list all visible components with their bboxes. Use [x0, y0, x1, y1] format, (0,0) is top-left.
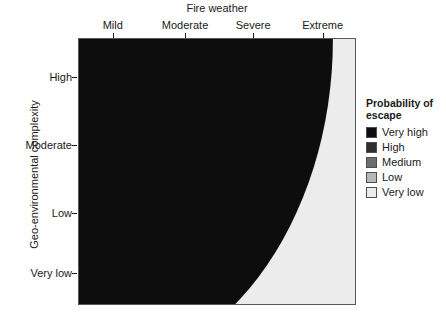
legend-item-label: Medium: [382, 156, 421, 169]
x-tick-label-1: Moderate: [162, 19, 208, 32]
y-tick-mark-3: [72, 273, 77, 274]
x-tick-label-2: Severe: [236, 19, 271, 32]
contour-bands: [79, 39, 355, 304]
legend-item-label: Very low: [382, 186, 424, 199]
plot-panel: [78, 38, 356, 305]
legend-item-label: Low: [382, 171, 402, 184]
legend-swatch-icon: [366, 172, 377, 183]
legend: Probability of escape Very highHighMediu…: [366, 97, 446, 200]
legend-item: Medium: [366, 155, 446, 170]
legend-items: Very highHighMediumLowVery low: [366, 125, 446, 200]
y-tick-mark-0: [72, 77, 77, 78]
legend-swatch-icon: [366, 187, 377, 198]
legend-item: Very high: [366, 125, 446, 140]
x-tick-label-3: Extreme: [302, 19, 343, 32]
x-tick-label-0: Mild: [103, 19, 123, 32]
legend-swatch-icon: [366, 127, 377, 138]
y-tick-label-2: Low: [52, 206, 72, 219]
legend-item: High: [366, 140, 446, 155]
legend-item: Low: [366, 170, 446, 185]
legend-item-label: Very high: [382, 126, 428, 139]
x-axis-title: Fire weather: [78, 2, 356, 15]
y-tick-label-0: High: [49, 70, 72, 83]
y-tick-label-3: Very low: [30, 266, 72, 279]
legend-swatch-icon: [366, 157, 377, 168]
figure-container: Fire weather MildModerateSevereExtreme G…: [0, 0, 446, 320]
legend-swatch-icon: [366, 142, 377, 153]
y-tick-label-1: Moderate: [26, 138, 72, 151]
legend-title: Probability of escape: [366, 97, 444, 121]
y-axis-title: Geo-environmental complexity: [28, 75, 41, 275]
legend-item-label: High: [382, 141, 405, 154]
legend-item: Very low: [366, 185, 446, 200]
y-tick-mark-2: [72, 213, 77, 214]
y-tick-mark-1: [72, 145, 77, 146]
